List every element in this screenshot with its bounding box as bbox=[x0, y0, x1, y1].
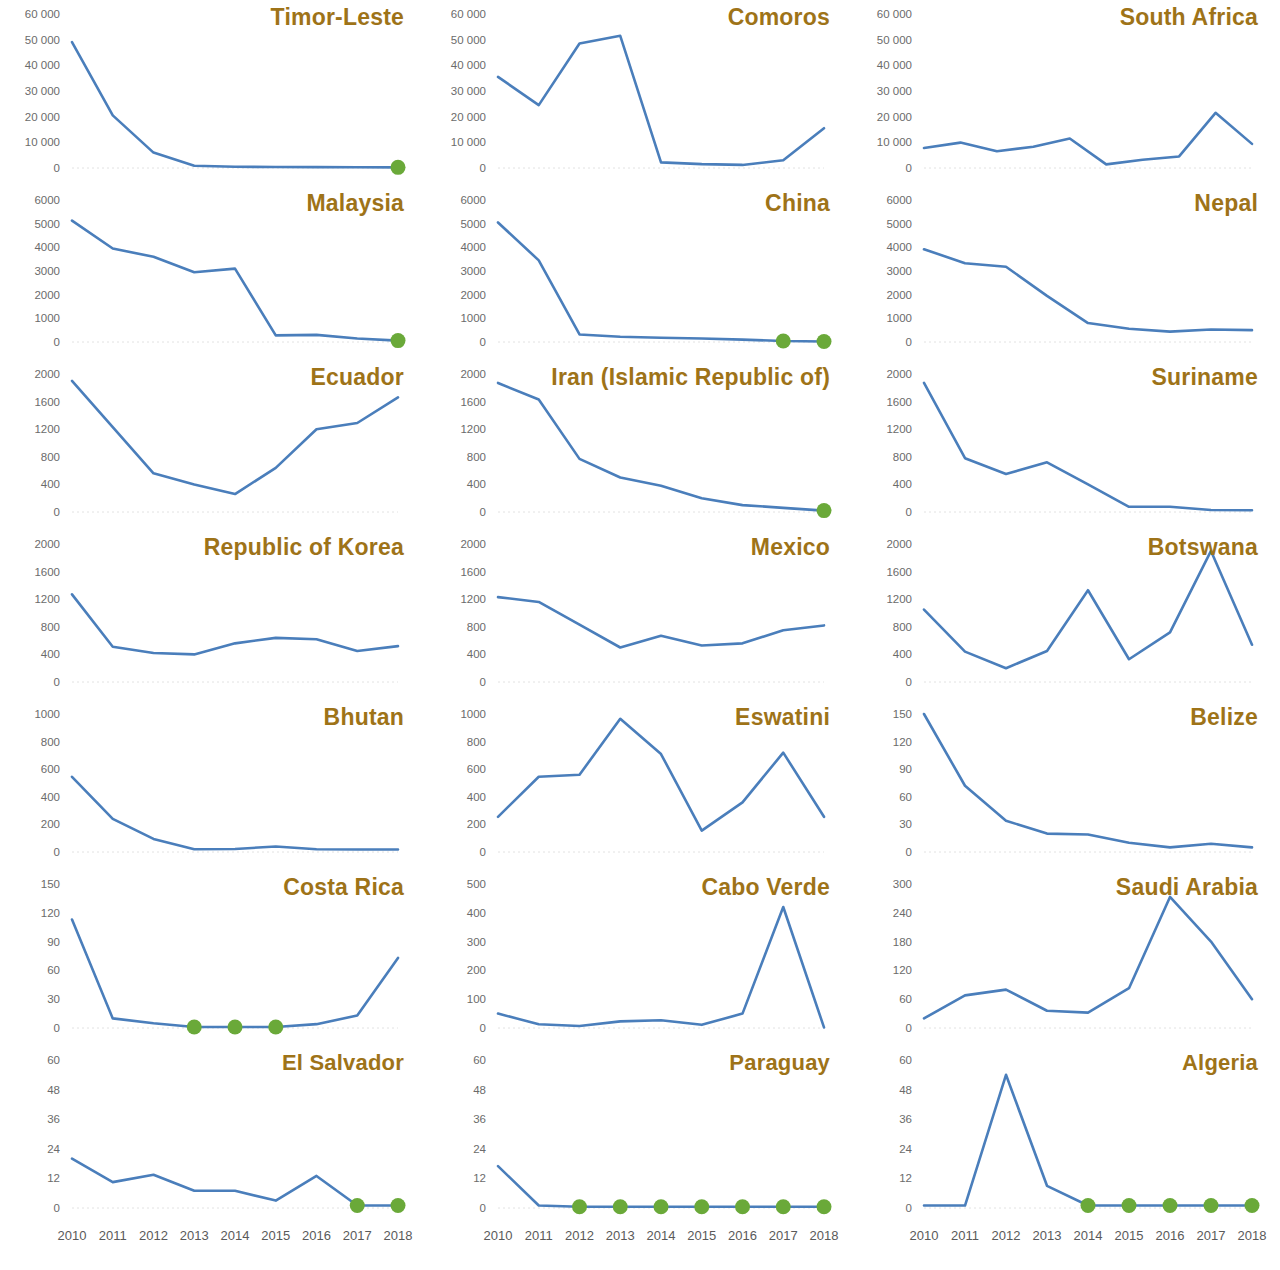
y-axis-tick-label: 20 000 bbox=[25, 111, 60, 123]
series-line bbox=[924, 249, 1252, 331]
series-line bbox=[498, 36, 824, 165]
chart-panel: Mexico0400800120016002000 bbox=[426, 530, 852, 700]
y-axis-tick-label: 800 bbox=[41, 451, 60, 463]
y-axis-tick-label: 400 bbox=[41, 648, 60, 660]
y-axis-tick-label: 2000 bbox=[886, 538, 912, 550]
y-axis-tick-label: 1600 bbox=[460, 396, 486, 408]
y-axis-tick-label: 1200 bbox=[460, 593, 486, 605]
elimination-marker-dot bbox=[613, 1199, 628, 1214]
chart-panel: Bhutan02004006008001000 bbox=[0, 700, 426, 870]
elimination-marker-dot bbox=[776, 1199, 791, 1214]
y-axis-tick-label: 30 bbox=[47, 993, 60, 1005]
chart-panel: Comoros010 00020 00030 00040 00050 00060… bbox=[426, 0, 852, 186]
elimination-marker-dot bbox=[391, 333, 406, 348]
y-axis-tick-label: 600 bbox=[41, 763, 60, 775]
y-axis-tick-label: 10 000 bbox=[25, 136, 60, 148]
y-axis-tick-label: 400 bbox=[467, 791, 486, 803]
y-axis-tick-label: 1200 bbox=[34, 593, 60, 605]
y-axis-tick-label: 600 bbox=[467, 763, 486, 775]
y-axis-tick-label: 36 bbox=[899, 1113, 912, 1125]
chart-panel: Ecuador0400800120016002000 bbox=[0, 360, 426, 530]
elimination-marker-dot bbox=[817, 503, 832, 518]
x-axis-tick-label: 2014 bbox=[1074, 1228, 1103, 1243]
chart-title: Belize bbox=[1190, 704, 1258, 731]
chart-panel: El Salvador01224364860201020112012201320… bbox=[0, 1046, 426, 1270]
x-axis-tick-label: 2015 bbox=[687, 1228, 716, 1243]
chart-plot: 0122436486020102011201220132014201520162… bbox=[0, 1046, 426, 1270]
y-axis-tick-label: 1200 bbox=[460, 423, 486, 435]
series-line bbox=[498, 597, 824, 647]
elimination-marker-dot bbox=[817, 1199, 832, 1214]
y-axis-tick-label: 0 bbox=[480, 336, 486, 348]
chart-panel: Nepal0100020003000400050006000 bbox=[852, 186, 1280, 360]
y-axis-tick-label: 60 000 bbox=[451, 8, 486, 20]
elimination-marker-dot bbox=[391, 160, 406, 175]
y-axis-tick-label: 48 bbox=[899, 1084, 912, 1096]
y-axis-tick-label: 5000 bbox=[460, 218, 486, 230]
x-axis-tick-label: 2016 bbox=[1156, 1228, 1185, 1243]
y-axis-tick-label: 200 bbox=[467, 964, 486, 976]
y-axis-tick-label: 0 bbox=[906, 162, 912, 174]
y-axis-tick-label: 60 bbox=[47, 964, 60, 976]
y-axis-tick-label: 400 bbox=[893, 478, 912, 490]
y-axis-tick-label: 24 bbox=[473, 1143, 486, 1155]
series-line bbox=[72, 221, 398, 341]
chart-panel: Eswatini02004006008001000 bbox=[426, 700, 852, 870]
y-axis-tick-label: 800 bbox=[467, 621, 486, 633]
chart-panel: Botswana0400800120016002000 bbox=[852, 530, 1280, 700]
chart-plot: 0122436486020102011201220132014201520162… bbox=[426, 1046, 852, 1270]
y-axis-tick-label: 0 bbox=[54, 162, 60, 174]
elimination-marker-dot bbox=[268, 1020, 283, 1035]
y-axis-tick-label: 50 000 bbox=[877, 34, 912, 46]
y-axis-tick-label: 150 bbox=[41, 878, 60, 890]
x-axis-tick-label: 2010 bbox=[910, 1228, 939, 1243]
y-axis-tick-label: 400 bbox=[467, 907, 486, 919]
y-axis-tick-label: 36 bbox=[47, 1113, 60, 1125]
series-line bbox=[924, 383, 1252, 510]
chart-title: El Salvador bbox=[282, 1050, 404, 1076]
chart-panel: Suriname0400800120016002000 bbox=[852, 360, 1280, 530]
y-axis-tick-label: 0 bbox=[906, 1022, 912, 1034]
y-axis-tick-label: 48 bbox=[473, 1084, 486, 1096]
y-axis-tick-label: 36 bbox=[473, 1113, 486, 1125]
y-axis-tick-label: 100 bbox=[467, 993, 486, 1005]
y-axis-tick-label: 24 bbox=[899, 1143, 912, 1155]
y-axis-tick-label: 3000 bbox=[886, 265, 912, 277]
y-axis-tick-label: 4000 bbox=[34, 241, 60, 253]
series-line bbox=[924, 1075, 1252, 1206]
y-axis-tick-label: 0 bbox=[54, 336, 60, 348]
y-axis-tick-label: 800 bbox=[467, 451, 486, 463]
y-axis-tick-label: 240 bbox=[893, 907, 912, 919]
chart-title: Timor-Leste bbox=[271, 4, 404, 31]
chart-title: Iran (Islamic Republic of) bbox=[551, 364, 830, 391]
y-axis-tick-label: 10 000 bbox=[877, 136, 912, 148]
elimination-marker-dot bbox=[654, 1199, 669, 1214]
y-axis-tick-label: 90 bbox=[899, 763, 912, 775]
y-axis-tick-label: 180 bbox=[893, 936, 912, 948]
chart-title: Eswatini bbox=[735, 704, 830, 731]
y-axis-tick-label: 40 000 bbox=[877, 59, 912, 71]
x-axis-tick-label: 2013 bbox=[180, 1228, 209, 1243]
chart-panel: South Africa010 00020 00030 00040 00050 … bbox=[852, 0, 1280, 186]
y-axis-tick-label: 6000 bbox=[460, 194, 486, 206]
y-axis-tick-label: 0 bbox=[906, 846, 912, 858]
y-axis-tick-label: 50 000 bbox=[451, 34, 486, 46]
y-axis-tick-label: 2000 bbox=[34, 368, 60, 380]
y-axis-tick-label: 400 bbox=[41, 478, 60, 490]
x-axis-tick-label: 2018 bbox=[384, 1228, 413, 1243]
y-axis-tick-label: 4000 bbox=[886, 241, 912, 253]
y-axis-tick-label: 0 bbox=[54, 846, 60, 858]
y-axis-tick-label: 2000 bbox=[886, 368, 912, 380]
y-axis-tick-label: 5000 bbox=[34, 218, 60, 230]
chart-panel: Costa Rica0306090120150 bbox=[0, 870, 426, 1046]
chart-panel: Cabo Verde0100200300400500 bbox=[426, 870, 852, 1046]
y-axis-tick-label: 0 bbox=[480, 1202, 486, 1214]
elimination-marker-dot bbox=[694, 1199, 709, 1214]
y-axis-tick-label: 800 bbox=[41, 736, 60, 748]
y-axis-tick-label: 800 bbox=[467, 736, 486, 748]
y-axis-tick-label: 0 bbox=[906, 1202, 912, 1214]
chart-title: Nepal bbox=[1194, 190, 1258, 217]
series-line bbox=[498, 383, 824, 511]
y-axis-tick-label: 0 bbox=[480, 676, 486, 688]
chart-panel: Iran (Islamic Republic of)04008001200160… bbox=[426, 360, 852, 530]
